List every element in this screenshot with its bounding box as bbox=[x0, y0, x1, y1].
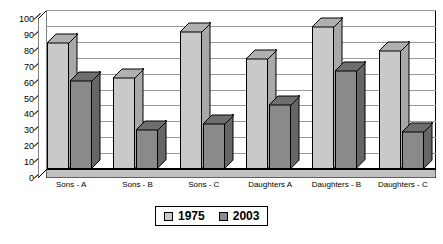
bar-top-face bbox=[136, 121, 167, 130]
x-axis: Sons - ASons - BSons - CDaughters ADaugh… bbox=[38, 180, 443, 194]
bar-side-face bbox=[423, 131, 432, 169]
bar-top-face bbox=[312, 18, 343, 27]
x-axis-category-label: Sons - C bbox=[171, 180, 237, 190]
bar-1975-Sons---A[interactable] bbox=[47, 42, 69, 169]
legend-swatch-icon bbox=[219, 212, 228, 221]
y-axis-tick-label: 50 bbox=[4, 95, 34, 104]
bar-top-face bbox=[379, 42, 410, 51]
bar-top-face bbox=[180, 23, 211, 32]
bar-group bbox=[370, 10, 436, 169]
chart-legend: 19752003 bbox=[155, 206, 268, 226]
legend-entry-2003[interactable]: 2003 bbox=[219, 210, 260, 222]
bar-side-face bbox=[224, 123, 233, 169]
legend-label: 2003 bbox=[233, 210, 260, 222]
bar-front-face bbox=[203, 123, 225, 169]
bar-side-face bbox=[157, 129, 166, 169]
bar-1975-Daughters-A[interactable] bbox=[246, 58, 268, 169]
bar-group bbox=[303, 10, 369, 169]
y-axis-tick-label: 30 bbox=[4, 126, 34, 135]
y-axis: 0102030405060708090100 bbox=[0, 10, 34, 178]
bar-2003-Sons---B[interactable] bbox=[136, 129, 158, 169]
bar-top-face bbox=[246, 50, 277, 59]
bar-front-face bbox=[180, 31, 202, 169]
y-axis-tick-label: 0 bbox=[4, 174, 34, 183]
y-axis-tick-label: 100 bbox=[4, 15, 34, 24]
bar-front-face bbox=[246, 58, 268, 169]
legend-label: 1975 bbox=[178, 210, 205, 222]
x-axis-category-label: Sons - A bbox=[38, 180, 104, 190]
y-axis-tick-label: 20 bbox=[4, 142, 34, 151]
bar-top-face bbox=[269, 96, 300, 105]
y-axis-tick-label: 10 bbox=[4, 158, 34, 167]
bar-front-face bbox=[312, 26, 334, 169]
x-axis-category-label: Sons - B bbox=[104, 180, 170, 190]
bar-1975-Sons---B[interactable] bbox=[113, 77, 135, 169]
bar-top-face bbox=[70, 72, 101, 81]
bar-front-face bbox=[70, 80, 92, 169]
bars-layer bbox=[38, 10, 436, 178]
bar-front-face bbox=[379, 50, 401, 169]
bar-chart: 0102030405060708090100 Sons - ASons - BS… bbox=[0, 0, 443, 244]
bar-group bbox=[38, 10, 104, 169]
y-axis-tick-label: 40 bbox=[4, 110, 34, 119]
bar-1975-Daughters---B[interactable] bbox=[312, 26, 334, 169]
bar-1975-Daughters---C[interactable] bbox=[379, 50, 401, 169]
bar-top-face bbox=[113, 69, 144, 78]
bar-side-face bbox=[356, 70, 365, 169]
bar-front-face bbox=[402, 131, 424, 169]
bar-side-face bbox=[91, 80, 100, 169]
y-axis-tick-label: 90 bbox=[4, 31, 34, 40]
bar-front-face bbox=[47, 42, 69, 169]
x-axis-category-label: Daughters - B bbox=[303, 180, 369, 190]
x-axis-category-label: Daughters A bbox=[237, 180, 303, 190]
bar-top-face bbox=[203, 115, 234, 124]
bar-front-face bbox=[136, 129, 158, 169]
bar-group bbox=[104, 10, 170, 169]
bar-2003-Daughters---C[interactable] bbox=[402, 131, 424, 169]
bar-front-face bbox=[269, 104, 291, 169]
bar-1975-Sons---C[interactable] bbox=[180, 31, 202, 169]
legend-entry-1975[interactable]: 1975 bbox=[164, 210, 205, 222]
bar-top-face bbox=[47, 34, 78, 43]
x-axis-category-label: Daughters - C bbox=[370, 180, 436, 190]
bar-2003-Sons---A[interactable] bbox=[70, 80, 92, 169]
bar-top-face bbox=[402, 123, 433, 132]
bar-front-face bbox=[335, 70, 357, 169]
bar-2003-Daughters-A[interactable] bbox=[269, 104, 291, 169]
bar-2003-Sons---C[interactable] bbox=[203, 123, 225, 169]
bar-top-face bbox=[335, 62, 366, 71]
bar-2003-Daughters---B[interactable] bbox=[335, 70, 357, 169]
bar-group bbox=[171, 10, 237, 169]
y-axis-tick-label: 60 bbox=[4, 79, 34, 88]
legend-swatch-icon bbox=[164, 212, 173, 221]
bar-front-face bbox=[113, 77, 135, 169]
y-axis-tick-label: 70 bbox=[4, 63, 34, 72]
y-axis-tick-label: 80 bbox=[4, 47, 34, 56]
bar-side-face bbox=[290, 104, 299, 169]
bar-group bbox=[237, 10, 303, 169]
